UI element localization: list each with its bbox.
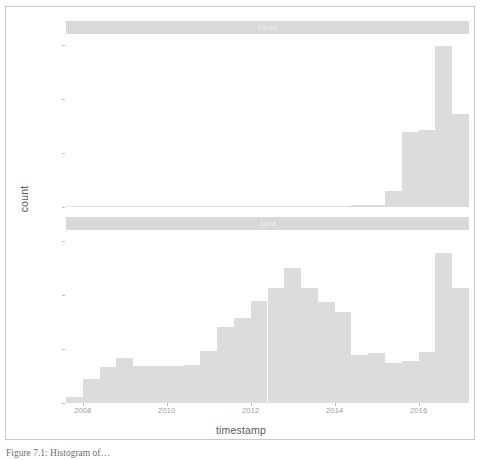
histogram-bar xyxy=(435,253,452,403)
facet-strip-label-dead: Dead xyxy=(66,21,469,34)
histogram-bar xyxy=(66,397,83,403)
histogram-bar xyxy=(335,312,352,403)
histogram-bar xyxy=(217,206,234,207)
histogram-bar xyxy=(200,351,217,403)
facet-panel-java: Java xyxy=(66,217,469,403)
histogram-bar xyxy=(234,206,251,207)
histogram-bar xyxy=(402,132,419,207)
histogram-bar xyxy=(301,206,318,207)
histogram-bar xyxy=(385,191,402,207)
y-axis-tick-mark xyxy=(62,295,65,296)
histogram-bar xyxy=(452,288,469,403)
figure-frame: count timestamp 050010001500 05001000150… xyxy=(5,6,475,440)
histogram-bar xyxy=(368,353,385,403)
histogram-bar xyxy=(100,367,117,403)
histogram-bar xyxy=(116,358,133,403)
y-axis-tick-mark xyxy=(62,207,65,208)
histogram-bar xyxy=(200,206,217,207)
histogram-bar xyxy=(318,302,335,403)
histogram-bar xyxy=(251,206,268,207)
histogram-bar xyxy=(402,361,419,403)
histogram-bar xyxy=(435,46,452,207)
x-axis-tick-label: 2010 xyxy=(147,406,187,415)
histogram-bar xyxy=(150,366,167,403)
histogram-bar xyxy=(351,205,368,207)
histogram-bar xyxy=(419,352,436,403)
y-axis-tick-mark xyxy=(62,45,65,46)
histogram-bar xyxy=(184,365,201,403)
facet-panel-dead: Dead xyxy=(66,21,469,207)
histogram-bar xyxy=(284,206,301,207)
y-axis-title: count xyxy=(18,159,30,239)
y-axis-tick-mark xyxy=(62,349,65,350)
histogram-bar xyxy=(133,366,150,403)
histogram-bar xyxy=(83,379,100,403)
histogram-bar xyxy=(452,114,469,207)
histogram-panel-java xyxy=(66,230,469,403)
histogram-bar xyxy=(385,363,402,403)
y-axis-tick-mark xyxy=(62,241,65,242)
histogram-bar xyxy=(268,288,285,403)
histogram-panel-dead xyxy=(66,34,469,207)
x-axis-title: timestamp xyxy=(6,424,476,436)
x-axis-tick-label: 2014 xyxy=(315,406,355,415)
histogram-bar xyxy=(335,206,352,207)
y-axis-tick-mark xyxy=(62,99,65,100)
histogram-bar xyxy=(351,355,368,403)
histogram-bar xyxy=(167,366,184,403)
x-axis-tick-label: 2012 xyxy=(231,406,271,415)
y-axis-tick-mark xyxy=(62,153,65,154)
facet-strip-label-java: Java xyxy=(66,217,469,230)
histogram-bar xyxy=(419,130,436,207)
histogram-bar xyxy=(284,268,301,403)
histogram-bar xyxy=(251,301,268,403)
histogram-bar xyxy=(217,327,234,403)
plot-area: count timestamp 050010001500 05001000150… xyxy=(6,7,476,441)
y-axis-tick-mark xyxy=(62,403,65,404)
histogram-bar xyxy=(268,206,285,207)
histogram-bar xyxy=(234,318,251,403)
histogram-bar xyxy=(318,206,335,207)
facet-strip-dead: Dead xyxy=(66,21,469,34)
histogram-bar xyxy=(301,288,318,403)
x-axis-tick-label: 2008 xyxy=(63,406,103,415)
histogram-bar xyxy=(368,205,385,207)
facet-strip-java: Java xyxy=(66,217,469,230)
x-axis-tick-label: 2016 xyxy=(399,406,439,415)
figure-caption: Figure 7.1: Histogram of… xyxy=(6,448,466,458)
